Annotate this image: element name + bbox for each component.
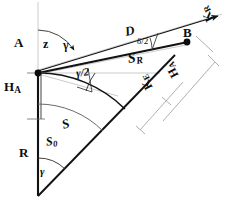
label-height-A: HA (4, 80, 21, 95)
arc-S-surface (38, 73, 125, 109)
label-height-A-sub: A (14, 85, 21, 95)
label-zenith-angle: z (43, 38, 48, 50)
label-gamma-bottom: γ (40, 166, 45, 177)
radius-lines (38, 55, 175, 196)
label-gamma-top: γ (63, 39, 69, 51)
tick-gamma-half-base (77, 87, 92, 92)
label-delta-half: δ/2 (137, 37, 148, 46)
arc-delta-half (150, 38, 152, 48)
dim-cap-KE-low (136, 126, 145, 134)
station-point-A (35, 70, 42, 77)
diagram-canvas (0, 0, 227, 200)
label-point-b: B (183, 26, 192, 39)
dim-line-KR (196, 36, 213, 52)
label-arc-SR-sub: R (135, 54, 143, 66)
label-radius-R: R (19, 146, 28, 159)
label-arc-S0: S0 (45, 134, 58, 149)
tick-marks (27, 33, 219, 134)
geometry-diagram: A B z γ γ/2 D δ/2 SR HA S S0 R γ KE HA K… (0, 0, 227, 200)
label-gamma-half: γ/2 (75, 66, 89, 78)
dim-cap-HA-right (208, 55, 219, 66)
label-arc-SR: SR (127, 50, 144, 67)
label-point-a: A (14, 36, 23, 49)
radius-line-to-B-foot (38, 55, 175, 196)
label-height-A-main: H (4, 79, 14, 94)
